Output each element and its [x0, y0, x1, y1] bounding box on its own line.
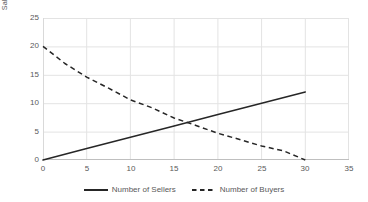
y-axis-title: Sale Price (in Gold)	[0, 0, 11, 38]
x-axis-tick-labels: 0 5 10 15 20 25 30 35	[0, 163, 368, 175]
legend-item-number-of-buyers[interactable]: Number of Buyers	[192, 185, 284, 195]
x-tick-label: 10	[119, 163, 143, 175]
plot-svg	[43, 18, 349, 160]
y-tick-label: 15	[17, 70, 39, 80]
x-tick-label: 20	[206, 163, 230, 175]
legend-swatch-dashed-line-icon	[192, 186, 216, 194]
legend-label: Number of Sellers	[112, 185, 176, 195]
y-tick-label: 5	[17, 127, 39, 137]
plot-area	[43, 18, 349, 160]
legend-item-number-of-sellers[interactable]: Number of Sellers	[84, 185, 176, 195]
x-tick-label: 5	[75, 163, 99, 175]
legend-label: Number of Buyers	[220, 185, 284, 195]
chart-legend: Number of Sellers Number of Buyers	[0, 182, 368, 198]
x-tick-label: 35	[337, 163, 361, 175]
x-tick-label: 15	[162, 163, 186, 175]
y-tick-label: 10	[17, 98, 39, 108]
y-tick-label: 25	[17, 13, 39, 23]
horizontal-gridlines	[43, 19, 349, 133]
x-tick-label: 30	[293, 163, 317, 175]
legend-swatch-solid-line-icon	[84, 186, 108, 194]
x-tick-label: 0	[31, 163, 55, 175]
x-tick-label: 25	[250, 163, 274, 175]
line-chart: Sale Price (in Gold) 25 20 15 10 5 0	[0, 0, 368, 202]
y-tick-label: 20	[17, 41, 39, 51]
